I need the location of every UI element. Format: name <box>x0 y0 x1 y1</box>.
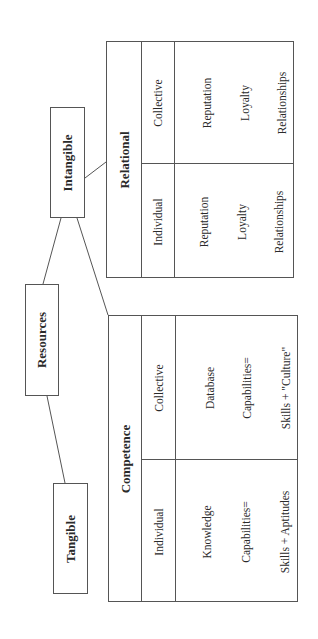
competence-collective-header: Collective <box>142 316 175 459</box>
competence-individual-item: Skills + Aptitudes <box>265 460 305 603</box>
relational-individual-item: Reputation <box>184 164 224 279</box>
competence-collective-item: Database <box>190 316 230 459</box>
intangible-node: Intangible <box>50 107 85 218</box>
edge-resources-tangible <box>47 396 65 483</box>
competence-title: Competence <box>118 424 134 493</box>
relational-collective-item: Reputation <box>187 42 227 163</box>
competence-individual-item: Capabilities= <box>226 460 266 603</box>
relational-collective-header: Collective <box>142 42 174 163</box>
relational-title: Relational <box>117 131 133 188</box>
tangible-node: Tangible <box>53 483 88 594</box>
relational-collective-item: Loyalty <box>225 42 265 163</box>
competence-table: Competence Collective Database Capabilit… <box>108 315 298 602</box>
relational-individual-item: Relationships <box>259 164 299 279</box>
relational-title-cell: Relational <box>107 42 142 277</box>
relational-collective-item: Relationships <box>262 42 302 163</box>
tangible-label: Tangible <box>63 515 79 563</box>
competence-collective-item: Capabilities= <box>227 316 267 459</box>
relational-table: Relational Collective Reputation Loyalty… <box>106 41 294 278</box>
edge-resources-intangible <box>43 218 61 284</box>
intangible-label: Intangible <box>60 134 76 191</box>
relational-individual-header: Individual <box>142 164 174 279</box>
relational-individual-item: Loyalty <box>222 164 262 279</box>
competence-individual-item: Knowledge <box>187 460 227 603</box>
edge-intangible-relational <box>85 162 106 178</box>
competence-individual-header: Individual <box>142 460 175 603</box>
edge-intangible-competence <box>77 218 108 315</box>
resources-node: Resources <box>25 284 59 396</box>
competence-title-cell: Competence <box>109 316 142 601</box>
competence-collective-item: Skills + "Culture" <box>266 316 306 459</box>
resources-label: Resources <box>34 312 50 368</box>
